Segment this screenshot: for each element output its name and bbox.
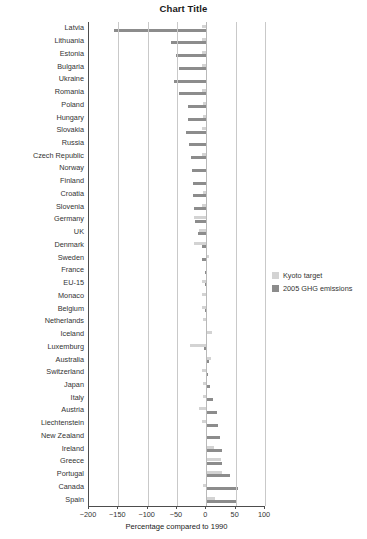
legend-label: Kyoto target xyxy=(283,272,322,280)
y-axis-label-spain: Spain xyxy=(0,496,84,504)
x-axis-title: Percentage compared to 1990 xyxy=(88,522,265,531)
chart-legend: Kyoto target2005 GHG emissions xyxy=(272,270,352,296)
x-tick-mark-50 xyxy=(235,506,236,509)
y-axis-label-portugal: Portugal xyxy=(0,470,84,478)
bar-ghg-2005-austria xyxy=(206,411,217,414)
x-tick-label: 100 xyxy=(244,510,284,519)
y-axis-label-hungary: Hungary xyxy=(0,114,84,122)
y-axis-label-poland: Poland xyxy=(0,101,84,109)
gridline-50 xyxy=(236,22,237,506)
bar-ghg-2005-portugal xyxy=(206,474,230,477)
y-axis-label-czech-republic: Czech Republic xyxy=(0,152,84,160)
bar-ghg-2005-finland xyxy=(193,182,206,185)
bar-ghg-2005-spain xyxy=(206,500,237,503)
bar-ghg-2005-romania xyxy=(179,92,206,95)
gridline-0 xyxy=(206,22,207,506)
legend-swatch-icon xyxy=(272,272,279,279)
y-axis-label-bulgaria: Bulgaria xyxy=(0,63,84,71)
bar-kyoto-target-austria xyxy=(199,407,207,410)
bar-ghg-2005-poland xyxy=(188,105,207,108)
x-tick-mark-100 xyxy=(264,506,265,509)
legend-item[interactable]: 2005 GHG emissions xyxy=(272,283,352,294)
bar-ghg-2005-croatia xyxy=(193,194,206,197)
y-axis-label-russia: Russia xyxy=(0,139,84,147)
y-axis-label-new-zealand: New Zealand xyxy=(0,432,84,440)
bar-ghg-2005-slovakia xyxy=(186,131,206,134)
bar-ghg-2005-greece xyxy=(206,462,221,465)
legend-swatch-icon xyxy=(272,285,279,292)
bar-ghg-2005-liechtenstein xyxy=(206,424,218,427)
bar-ghg-2005-ukraine xyxy=(174,80,206,83)
chart-title: Chart Title xyxy=(0,3,367,14)
y-axis-label-denmark: Denmark xyxy=(0,241,84,249)
y-axis-label-estonia: Estonia xyxy=(0,50,84,58)
gridline--100 xyxy=(148,22,149,506)
bar-ghg-2005-ireland xyxy=(206,449,221,452)
bar-ghg-2005-latvia xyxy=(114,29,207,32)
y-axis-label-uk: UK xyxy=(0,228,84,236)
y-axis-label-switzerland: Switzerland xyxy=(0,368,84,376)
y-axis-label-austria: Austria xyxy=(0,406,84,414)
x-tick-mark--200 xyxy=(88,506,89,509)
y-axis-label-norway: Norway xyxy=(0,164,84,172)
legend-item[interactable]: Kyoto target xyxy=(272,270,352,281)
bar-ghg-2005-italy xyxy=(206,398,213,401)
y-axis-label-iceland: Iceland xyxy=(0,330,84,338)
y-axis-label-sweden: Sweden xyxy=(0,254,84,262)
y-axis-label-italy: Italy xyxy=(0,394,84,402)
bar-ghg-2005-czech-republic xyxy=(191,156,206,159)
y-axis-label-slovakia: Slovakia xyxy=(0,126,84,134)
x-tick-mark-0 xyxy=(205,506,206,509)
y-axis-label-monaco: Monaco xyxy=(0,292,84,300)
bar-ghg-2005-germany xyxy=(195,220,206,223)
y-axis-label-eu-15: EU-15 xyxy=(0,279,84,287)
x-tick-mark--150 xyxy=(117,506,118,509)
y-axis-label-ireland: Ireland xyxy=(0,445,84,453)
y-axis-label-netherlands: Netherlands xyxy=(0,317,84,325)
y-axis-category-labels: LatviaLithuaniaEstoniaBulgariaUkraineRom… xyxy=(0,22,84,506)
y-axis-label-slovenia: Slovenia xyxy=(0,203,84,211)
bar-ghg-2005-canada xyxy=(206,487,238,490)
y-axis-label-liechtenstein: Liechtenstein xyxy=(0,419,84,427)
x-tick-mark--50 xyxy=(176,506,177,509)
plot-panel xyxy=(88,22,264,506)
y-axis-label-france: France xyxy=(0,266,84,274)
y-axis-label-croatia: Croatia xyxy=(0,190,84,198)
bar-ghg-2005-norway xyxy=(192,169,207,172)
y-axis-label-latvia: Latvia xyxy=(0,24,84,32)
bar-ghg-2005-uk xyxy=(198,232,207,235)
bar-ghg-2005-bulgaria xyxy=(179,67,207,70)
y-axis-label-luxemburg: Luxemburg xyxy=(0,343,84,351)
y-axis-label-greece: Greece xyxy=(0,457,84,465)
bar-ghg-2005-russia xyxy=(189,143,206,146)
bar-ghg-2005-new-zealand xyxy=(206,436,219,439)
y-axis-label-finland: Finland xyxy=(0,177,84,185)
y-axis-label-canada: Canada xyxy=(0,483,84,491)
y-axis-label-australia: Australia xyxy=(0,356,84,364)
gridline--50 xyxy=(177,22,178,506)
bar-ghg-2005-slovenia xyxy=(194,207,206,210)
y-axis-label-belgium: Belgium xyxy=(0,305,84,313)
y-axis-label-germany: Germany xyxy=(0,215,84,223)
bar-ghg-2005-hungary xyxy=(188,118,207,121)
bar-ghg-2005-estonia xyxy=(176,54,207,57)
y-axis-label-ukraine: Ukraine xyxy=(0,75,84,83)
bar-chart: Chart Title LatviaLithuaniaEstoniaBulgar… xyxy=(0,0,367,539)
y-axis-label-japan: Japan xyxy=(0,381,84,389)
gridline--150 xyxy=(118,22,119,506)
legend-label: 2005 GHG emissions xyxy=(283,285,352,293)
y-axis-label-romania: Romania xyxy=(0,88,84,96)
x-tick-mark--100 xyxy=(147,506,148,509)
y-axis-label-lithuania: Lithuania xyxy=(0,37,84,45)
gridline-100 xyxy=(265,22,266,506)
